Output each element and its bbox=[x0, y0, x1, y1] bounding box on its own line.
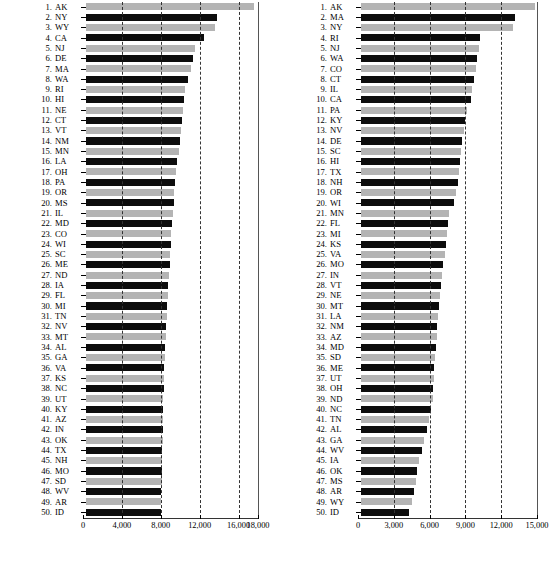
row-rank: 44. bbox=[26, 446, 55, 455]
bar-track bbox=[86, 445, 258, 455]
row-state-label: NH bbox=[55, 456, 81, 465]
bar-track bbox=[361, 487, 537, 497]
chart-row: 22.MD bbox=[26, 219, 258, 229]
chart-row: 10.CA bbox=[301, 95, 537, 105]
bar bbox=[361, 478, 416, 485]
bar-track bbox=[361, 425, 537, 435]
chart-row: 23.CO bbox=[26, 229, 258, 239]
chart-row: 32.NM bbox=[301, 322, 537, 332]
bar bbox=[86, 313, 167, 320]
axis-tick bbox=[161, 515, 162, 519]
bar-track bbox=[361, 507, 537, 517]
bar bbox=[361, 45, 479, 52]
chart-row: 25.SC bbox=[26, 250, 258, 260]
bar-track bbox=[361, 219, 537, 229]
row-rank: 19. bbox=[26, 188, 55, 197]
row-state-label: CO bbox=[330, 65, 356, 74]
right-x-axis: 03,0006,0009,00012,00015,000 bbox=[358, 519, 537, 533]
row-rank: 17. bbox=[301, 168, 330, 177]
row-state-label: WI bbox=[55, 240, 81, 249]
row-state-label: VA bbox=[55, 364, 81, 373]
row-state-label: MN bbox=[55, 147, 81, 156]
bar bbox=[86, 406, 163, 413]
axis-tick-label: 12,000 bbox=[188, 521, 211, 531]
row-state-label: AR bbox=[330, 487, 356, 496]
row-rank: 15. bbox=[301, 147, 330, 156]
axis-tick-label: 4,000 bbox=[112, 521, 131, 531]
row-rank: 40. bbox=[301, 405, 330, 414]
row-state-label: DE bbox=[330, 137, 356, 146]
row-rank: 39. bbox=[301, 395, 330, 404]
row-state-label: IL bbox=[330, 85, 356, 94]
row-state-label: VT bbox=[330, 281, 356, 290]
chart-row: 28.VT bbox=[301, 280, 537, 290]
row-rank: 24. bbox=[301, 240, 330, 249]
bar-track bbox=[86, 487, 258, 497]
row-state-label: TN bbox=[330, 415, 356, 424]
bar bbox=[86, 395, 163, 402]
chart-row: 46.OK bbox=[301, 466, 537, 476]
row-rank: 37. bbox=[26, 374, 55, 383]
bar-track bbox=[86, 250, 258, 260]
bar-track bbox=[86, 466, 258, 476]
chart-row: 42.IN bbox=[26, 425, 258, 435]
row-rank: 29. bbox=[301, 291, 330, 300]
row-rank: 26. bbox=[301, 260, 330, 269]
row-rank: 41. bbox=[26, 415, 55, 424]
bar-track bbox=[86, 404, 258, 414]
chart-row: 38.NC bbox=[26, 384, 258, 394]
bar-track bbox=[86, 476, 258, 486]
row-rank: 27. bbox=[301, 271, 330, 280]
chart-row: 47.SD bbox=[26, 476, 258, 486]
row-rank: 10. bbox=[26, 95, 55, 104]
row-state-label: TX bbox=[55, 446, 81, 455]
row-state-label: WV bbox=[330, 446, 356, 455]
row-state-label: NH bbox=[330, 178, 356, 187]
row-rank: 43. bbox=[301, 436, 330, 445]
row-rank: 4. bbox=[301, 34, 330, 43]
bar bbox=[361, 292, 440, 299]
row-rank: 46. bbox=[301, 467, 330, 476]
bar bbox=[86, 34, 204, 41]
bar bbox=[361, 189, 456, 196]
chart-row: 39.UT bbox=[26, 394, 258, 404]
row-state-label: SC bbox=[55, 250, 81, 259]
row-rank: 10. bbox=[301, 95, 330, 104]
bar bbox=[86, 107, 183, 114]
bar bbox=[361, 179, 458, 186]
row-state-label: PA bbox=[330, 106, 356, 115]
row-rank: 6. bbox=[301, 54, 330, 63]
chart-row: 34.AL bbox=[26, 342, 258, 352]
row-rank: 12. bbox=[26, 116, 55, 125]
row-rank: 11. bbox=[26, 106, 55, 115]
chart-row: 3.NY bbox=[301, 23, 537, 33]
bar bbox=[361, 416, 429, 423]
row-rank: 42. bbox=[301, 425, 330, 434]
chart-row: 2.NY bbox=[26, 12, 258, 22]
row-rank: 12. bbox=[301, 116, 330, 125]
chart-row: 7.MA bbox=[26, 64, 258, 74]
row-state-label: NJ bbox=[55, 44, 81, 53]
bar bbox=[86, 354, 165, 361]
chart-row: 24.WI bbox=[26, 239, 258, 249]
chart-row: 36.VA bbox=[26, 363, 258, 373]
row-rank: 21. bbox=[301, 209, 330, 218]
bar-track bbox=[86, 239, 258, 249]
row-state-label: FL bbox=[55, 291, 81, 300]
bar-track bbox=[86, 291, 258, 301]
chart-row: 46.MO bbox=[26, 466, 258, 476]
chart-row: 37.UT bbox=[301, 373, 537, 383]
bar-track bbox=[361, 126, 537, 136]
bar bbox=[86, 375, 164, 382]
row-rank: 24. bbox=[26, 240, 55, 249]
axis-tick bbox=[358, 515, 359, 519]
row-state-label: OK bbox=[330, 467, 356, 476]
bar bbox=[86, 45, 195, 52]
bar-track bbox=[361, 177, 537, 187]
row-state-label: ME bbox=[330, 364, 356, 373]
bar-track bbox=[86, 115, 258, 125]
chart-row: 48.WV bbox=[26, 487, 258, 497]
row-rank: 37. bbox=[301, 374, 330, 383]
bar-track bbox=[361, 476, 537, 486]
bar-track bbox=[361, 260, 537, 270]
